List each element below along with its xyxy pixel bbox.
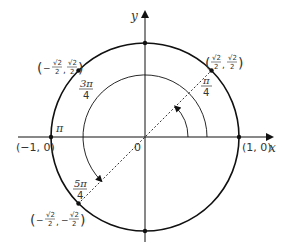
svg-text:,: , [63,65,66,75]
svg-text:2: 2 [214,63,218,71]
point-dot-0-minus1 [143,229,147,233]
point-dot-5pi4 [76,201,80,205]
svg-text:2: 2 [72,220,76,228]
unit-circle-diagram: y x 0 (1, 0) (−1, 0) π ( √2 2 , √2 2 ) π… [0,0,289,248]
point-dot-1-0 [237,135,241,139]
svg-text:−: − [43,63,51,73]
angle-label-3pi4: 3π 4 [79,78,93,101]
svg-text:−: − [61,215,69,225]
svg-text:4: 4 [77,190,83,201]
svg-text:2: 2 [48,220,52,228]
angle-label-pi: π [55,122,64,135]
svg-text:4: 4 [203,87,209,98]
svg-text:3π: 3π [80,78,93,89]
svg-text:5π: 5π [74,178,87,189]
svg-text:): ) [238,55,243,71]
svg-text:√2: √2 [68,59,77,67]
origin-label: 0 [134,141,141,154]
svg-text:,: , [56,217,59,227]
svg-text:√2: √2 [228,54,237,62]
svg-text:−: − [36,215,44,225]
svg-text:√2: √2 [70,211,79,219]
svg-text:(: ( [37,60,42,76]
angle-arc-pi-over-4 [175,107,188,137]
point-dot-0-1 [143,41,147,45]
angle-label-5pi4: 5π 4 [73,178,87,201]
svg-text:(: ( [205,55,210,71]
coord-label-minus1-0: (−1, 0) [16,141,55,154]
svg-text:π: π [202,75,210,86]
svg-text:4: 4 [83,90,89,101]
svg-text:√2: √2 [46,211,55,219]
y-axis-label: y [130,9,138,23]
svg-text:2: 2 [55,68,59,76]
svg-text:): ) [80,212,85,228]
point-dot-minus1-0 [49,135,53,139]
svg-text:): ) [78,60,83,76]
svg-text:√2: √2 [212,54,221,62]
coord-label-1-0: (1, 0) [242,141,272,154]
svg-text:√2: √2 [53,59,62,67]
angle-label-pi4: π 4 [201,75,212,98]
svg-text:2: 2 [70,68,74,76]
coord-label-5pi4: ( − √2 2 , − √2 2 ) [30,211,85,228]
svg-text:2: 2 [230,63,234,71]
svg-text:(: ( [30,212,35,228]
svg-text:,: , [222,60,225,70]
